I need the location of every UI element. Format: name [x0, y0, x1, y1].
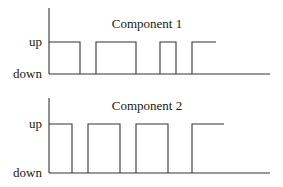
panel-component-1: Component 1 up down	[13, 8, 270, 81]
y-label-down: down	[13, 66, 42, 81]
y-label-up: up	[29, 116, 42, 131]
timing-diagram: Component 1 up down Component 2 up down	[0, 0, 283, 187]
y-label-up: up	[29, 34, 42, 49]
panel-title: Component 1	[112, 16, 182, 31]
signal-trace	[49, 42, 216, 74]
y-label-down: down	[13, 165, 42, 180]
panel-title: Component 2	[112, 98, 182, 113]
panel-component-2: Component 2 up down	[13, 98, 270, 180]
signal-trace	[49, 124, 224, 173]
